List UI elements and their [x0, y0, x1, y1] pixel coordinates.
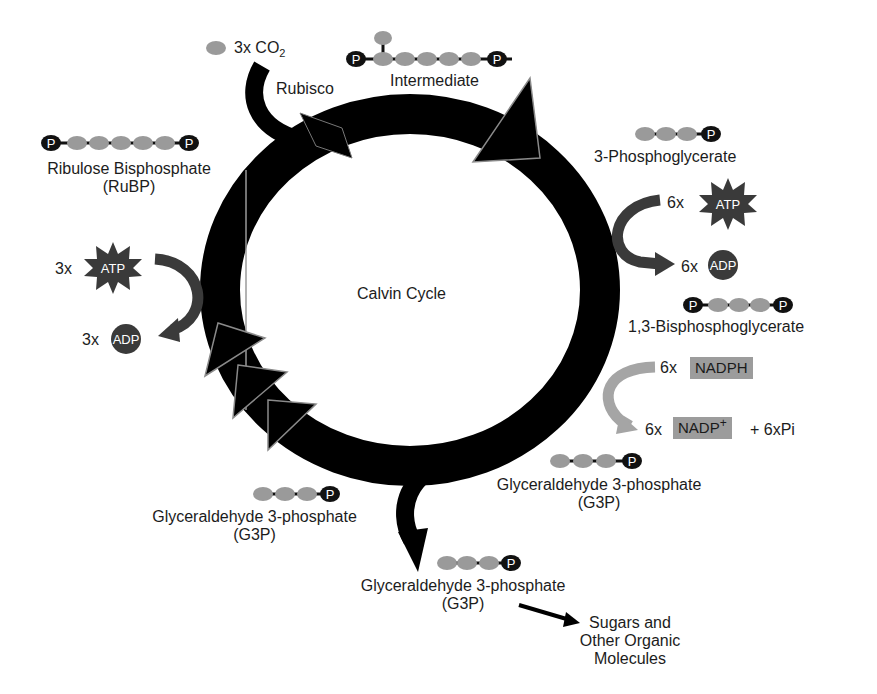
svg-text:P: P — [326, 487, 335, 502]
svg-text:ADP: ADP — [113, 332, 140, 347]
bpg-label: 1,3-Bisphosphoglycerate — [628, 318, 804, 336]
svg-text:ADP: ADP — [710, 258, 737, 273]
svg-text:P: P — [507, 556, 516, 571]
atp-right-count: 6x — [667, 194, 684, 212]
svg-text:P: P — [779, 298, 788, 313]
rubp-molecule-icon: P P — [41, 135, 199, 151]
adp-right-count: 6x — [681, 258, 698, 276]
svg-text:P: P — [628, 454, 637, 469]
bpg-molecule-icon: P P — [683, 297, 793, 313]
nadph-box: NADPH — [690, 357, 753, 379]
rubp-label: Ribulose Bisphosphate (RuBP) — [24, 160, 234, 196]
pi-label: + 6xPi — [750, 421, 795, 439]
adp-left-icon: ADP — [111, 324, 141, 354]
nadp-count: 6x — [645, 421, 662, 439]
svg-text:ATP: ATP — [101, 261, 125, 276]
svg-text:P: P — [707, 127, 716, 142]
atp-adp-left-arrow-icon — [155, 259, 198, 342]
nadph-count: 6x — [660, 359, 677, 377]
g3p-out-molecule-icon: P — [437, 555, 521, 571]
products-label: Sugars and Other Organic Molecules — [560, 614, 700, 668]
svg-text:P: P — [47, 136, 56, 151]
adp-right-icon: ADP — [708, 250, 738, 280]
svg-text:P: P — [185, 136, 194, 151]
atp-left-icon: ATP — [84, 242, 142, 294]
atp-left-count: 3x — [55, 260, 72, 278]
svg-text:P: P — [352, 52, 361, 67]
intermediate-molecule-icon: P P — [346, 31, 512, 67]
calvin-cycle-diagram: P P P P P — [0, 0, 877, 694]
svg-text:P: P — [689, 298, 698, 313]
co2-molecule-icon — [206, 41, 226, 55]
pga-label: 3-Phosphoglycerate — [594, 148, 736, 166]
g3p-right-label: Glyceraldehyde 3-phosphate (G3P) — [484, 476, 714, 512]
svg-text:P: P — [493, 52, 502, 67]
adp-left-count: 3x — [82, 331, 99, 349]
g3p-right-molecule-icon: P — [550, 453, 642, 469]
cycle-title: Calvin Cycle — [357, 285, 446, 303]
pga-molecule-icon: P — [635, 126, 721, 142]
g3p-out-label: Glyceraldehyde 3-phosphate (G3P) — [348, 577, 578, 613]
atp-right-icon: ATP — [699, 178, 757, 230]
co2-label: 3x CO2 — [234, 39, 285, 57]
g3p-left-label: Glyceraldehyde 3-phosphate (G3P) — [142, 508, 367, 544]
nadp-box: NADP+ — [673, 417, 732, 439]
svg-text:ATP: ATP — [716, 197, 740, 212]
intermediate-label: Intermediate — [390, 72, 479, 90]
rubisco-label: Rubisco — [276, 80, 334, 98]
g3p-left-molecule-icon: P — [253, 486, 340, 502]
